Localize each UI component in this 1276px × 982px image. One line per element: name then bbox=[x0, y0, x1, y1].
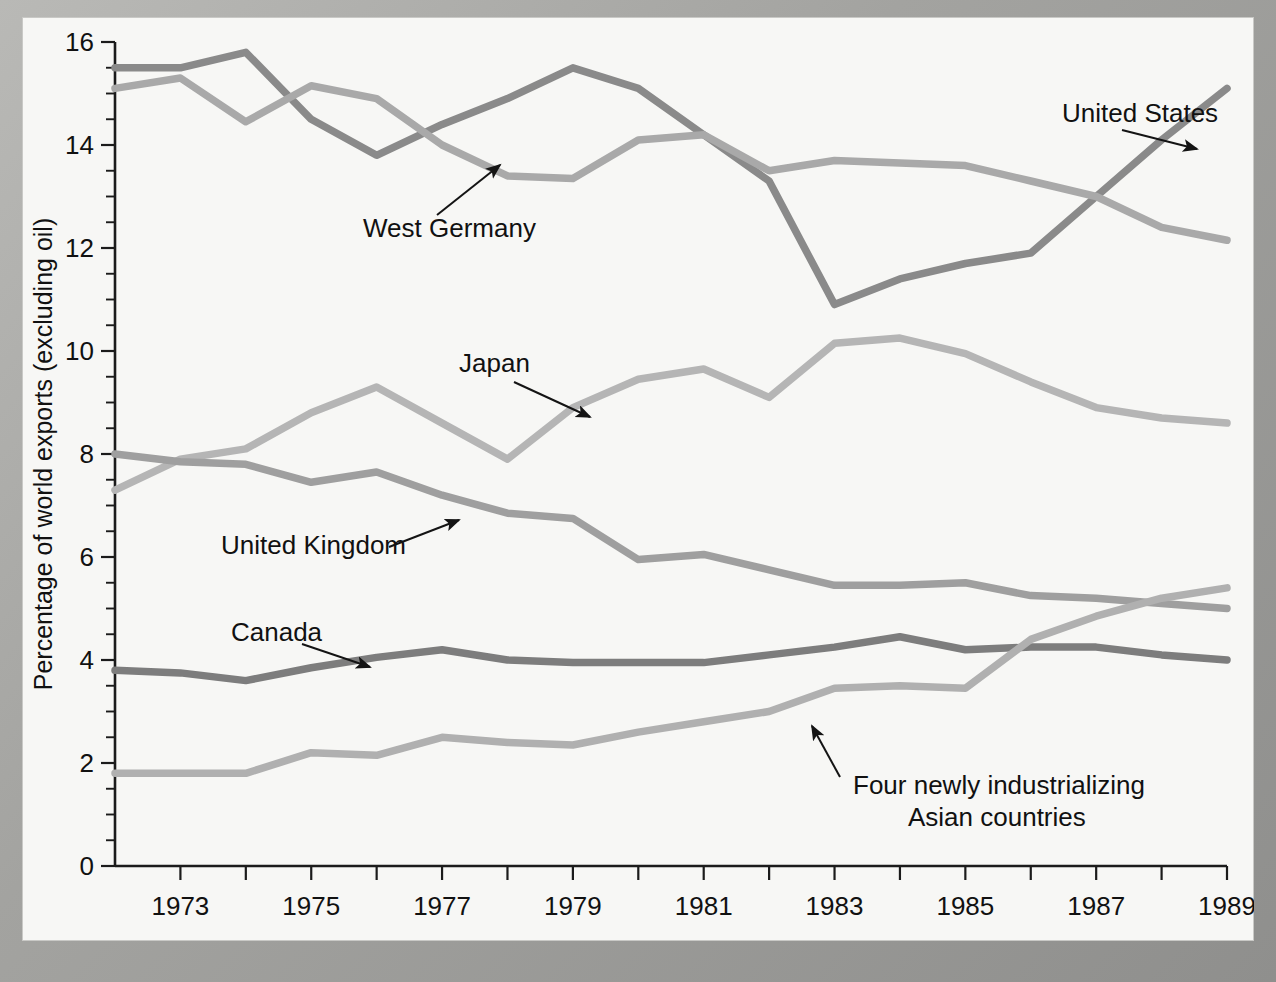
annotation-label-canada: Canada bbox=[231, 617, 323, 647]
y-tick-label: 14 bbox=[65, 130, 94, 160]
annotation-label-west-germany: West Germany bbox=[363, 213, 536, 243]
scan-background: 0246810121416197319751977197919811983198… bbox=[0, 0, 1276, 982]
x-tick-label: 1975 bbox=[282, 891, 340, 921]
x-tick-label: 1987 bbox=[1067, 891, 1125, 921]
series-line-four-newly-industrializing-asian-countries bbox=[115, 588, 1227, 773]
x-tick-label: 1981 bbox=[675, 891, 733, 921]
annotation-arrow-west-germany bbox=[437, 165, 500, 215]
x-tick-label: 1985 bbox=[936, 891, 994, 921]
x-tick-label: 1977 bbox=[413, 891, 471, 921]
y-tick-label: 4 bbox=[80, 645, 94, 675]
y-tick-label: 12 bbox=[65, 233, 94, 263]
series-line-united-states bbox=[115, 52, 1227, 304]
annotation-label-japan: Japan bbox=[459, 348, 530, 378]
annotation-label-united-kingdom: United Kingdom bbox=[221, 530, 406, 560]
chart-container: 0246810121416197319751977197919811983198… bbox=[22, 17, 1254, 941]
y-tick-label: 6 bbox=[80, 542, 94, 572]
x-tick-label: 1979 bbox=[544, 891, 602, 921]
x-tick-label: 1973 bbox=[151, 891, 209, 921]
x-axis-title: Year bbox=[646, 937, 697, 941]
annotation-label-united-states: United States bbox=[1062, 98, 1218, 128]
annotation-arrow-four-nics-line1 bbox=[812, 726, 840, 777]
y-tick-label: 16 bbox=[65, 27, 94, 57]
figure-page: 0246810121416197319751977197919811983198… bbox=[22, 17, 1254, 941]
y-tick-label: 10 bbox=[65, 336, 94, 366]
annotation-label-four-nics-line2: Asian countries bbox=[908, 802, 1086, 832]
annotation-arrow-japan bbox=[514, 382, 590, 417]
y-tick-label: 8 bbox=[80, 439, 94, 469]
line-chart: 0246810121416197319751977197919811983198… bbox=[22, 17, 1254, 941]
x-tick-label: 1989 bbox=[1198, 891, 1254, 921]
series-line-japan bbox=[115, 338, 1227, 490]
y-tick-label: 0 bbox=[80, 851, 94, 881]
y-tick-label: 2 bbox=[80, 748, 94, 778]
annotation-label-four-nics-line1: Four newly industrializing bbox=[853, 770, 1145, 800]
series-line-west-germany bbox=[115, 78, 1227, 240]
x-tick-label: 1983 bbox=[806, 891, 864, 921]
y-axis-title: Percentage of world exports (excluding o… bbox=[29, 218, 57, 690]
